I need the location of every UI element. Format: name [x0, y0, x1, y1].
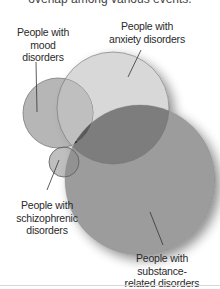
label-substance-line-2: related disorders	[110, 277, 214, 289]
label-schizophrenic-line-2: schizophrenic	[14, 212, 80, 225]
label-schizophrenic: People with schizophrenic disorders	[14, 199, 80, 237]
label-substance-line-1: People with substance-	[110, 252, 214, 277]
label-mood: People with mood disorders	[12, 26, 74, 64]
label-schizophrenic-line-3: disorders	[14, 224, 80, 237]
label-mood-line-1: People with	[12, 26, 74, 39]
label-mood-line-3: disorders	[12, 51, 74, 64]
label-schizophrenic-line-1: People with	[14, 199, 80, 212]
label-mood-line-2: mood	[12, 39, 74, 52]
set-schizophrenic-circle	[49, 147, 79, 177]
bottom-divider	[0, 285, 220, 286]
label-substance: People with substance- related disorders	[110, 252, 214, 289]
label-anxiety-line-2: anxiety disorders	[107, 33, 187, 46]
label-anxiety: People with anxiety disorders	[107, 20, 187, 45]
label-anxiety-line-1: People with	[107, 20, 187, 33]
